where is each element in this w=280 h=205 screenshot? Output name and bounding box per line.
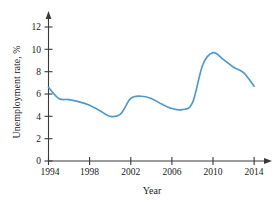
y-tick-label-12: 12: [32, 22, 42, 32]
x-tick-label-2006: 2006: [162, 167, 181, 177]
x-tick-label-2014: 2014: [245, 167, 264, 177]
y-tick-label-6: 6: [36, 89, 41, 99]
x-tick-label-2010: 2010: [204, 167, 223, 177]
x-tick-label-2002: 2002: [121, 167, 140, 177]
y-tick-label-0: 0: [36, 156, 41, 166]
x-tick-label-1998: 1998: [80, 167, 99, 177]
y-tick-label-4: 4: [36, 112, 41, 122]
unemployment-rate-line-chart: 0 2 4 6 8 10 12 1994 1998 2002 2006 2010…: [0, 0, 280, 205]
y-tick-label-2: 2: [36, 134, 41, 144]
x-tick-label-1994: 1994: [41, 167, 60, 177]
x-axis-title: Year: [143, 185, 162, 196]
y-axis-title: Unemployment rate, %: [11, 45, 22, 138]
y-tick-label-10: 10: [32, 45, 42, 55]
y-tick-label-8: 8: [36, 67, 41, 77]
